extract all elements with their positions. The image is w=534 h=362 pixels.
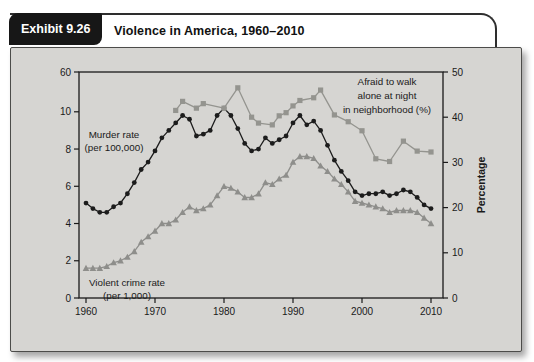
violent-crime-rate-per-1-000-series [83,153,435,271]
svg-text:Violent crime rate: Violent crime rate [89,277,166,288]
svg-text:2000: 2000 [351,306,374,317]
svg-text:0: 0 [65,293,71,304]
svg-text:6: 6 [65,181,71,192]
svg-text:2010: 2010 [420,306,443,317]
svg-text:Afraid to walk: Afraid to walk [358,76,417,87]
chart-canvas: 02468106001020304050Percentage1960197019… [11,48,523,353]
svg-text:10: 10 [60,106,72,117]
exhibit-page: Exhibit 9.26 Violence in America, 1960–2… [0,0,534,362]
right-axis-title: Percentage [475,157,487,214]
right-axis: 01020304050Percentage [443,67,487,304]
svg-text:0: 0 [452,293,458,304]
svg-text:20: 20 [452,202,464,213]
exhibit-number-tab: Exhibit 9.26 [9,13,102,45]
svg-text:alone at night: alone at night [358,90,417,101]
afraid-label: Afraid to walkalone at nightin neighborh… [343,76,431,115]
svg-text:1960: 1960 [75,306,98,317]
svg-text:(per 1,000): (per 1,000) [103,290,151,301]
exhibit-header: Exhibit 9.26 Violence in America, 1960–2… [10,13,497,47]
svg-text:Murder rate: Murder rate [89,129,140,140]
murder-rate-label: Murder rate(per 100,000) [85,129,144,153]
svg-text:2: 2 [65,255,71,266]
svg-text:30: 30 [452,157,464,168]
exhibit-number-label: Exhibit 9.26 [21,22,90,36]
svg-text:(per 100,000): (per 100,000) [85,142,144,153]
svg-text:in neighborhood (%): in neighborhood (%) [343,104,431,115]
svg-text:10: 10 [452,247,464,258]
svg-text:1970: 1970 [144,306,167,317]
svg-text:1990: 1990 [282,306,305,317]
chart-title: Violence in America, 1960–2010 [114,15,305,47]
annotations: Murder rate(per 100,000)Violent crime ra… [85,76,432,301]
chart-panel: 02468106001020304050Percentage1960197019… [10,47,522,352]
svg-text:4: 4 [65,218,71,229]
svg-text:1980: 1980 [213,306,236,317]
svg-text:60: 60 [60,67,72,78]
svg-text:40: 40 [452,112,464,123]
svg-text:50: 50 [452,67,464,78]
svg-text:8: 8 [65,144,71,155]
left-axis: 024681060 [60,67,79,304]
